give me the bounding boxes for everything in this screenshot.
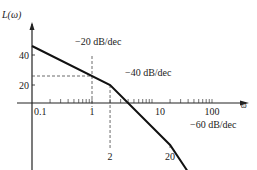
y-tick-label: 20: [19, 80, 29, 91]
x-tick-label: 0.1: [34, 106, 47, 117]
axes: [17, 22, 249, 170]
slope-annotation: −60 dB/dec: [190, 119, 237, 130]
slope-annotation: −20 dB/dec: [75, 36, 122, 47]
x-tick-label: 100: [205, 106, 220, 117]
x-tick-label: 1: [90, 106, 95, 117]
guide-label: 20: [165, 151, 175, 162]
slope-annotation: −40 dB/dec: [125, 67, 172, 78]
guide-label: 2: [108, 151, 113, 162]
bode-plot: 4020 L(ω) ω 0.1110100220−20 dB/dec−40 dB…: [0, 0, 257, 170]
y-axis-arrow: [30, 22, 35, 30]
y-tick-label: 40: [19, 50, 29, 61]
x-tick-label: 10: [155, 106, 165, 117]
labels: 0.1110100220−20 dB/dec−40 dB/dec−60 dB/d…: [34, 36, 237, 162]
x-axis-label: ω: [241, 101, 247, 110]
y-axis-label: L(ω): [1, 9, 22, 21]
